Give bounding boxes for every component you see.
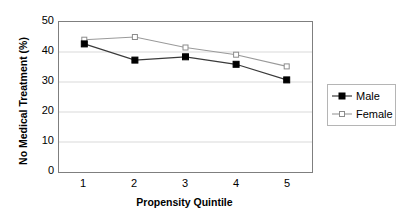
data-point-female-q5 — [284, 64, 289, 69]
data-point-male-q1 — [81, 41, 87, 47]
y-tick-label-30: 30 — [32, 75, 54, 86]
x-axis-tick-labels: 1 2 3 4 5 — [58, 177, 311, 191]
legend-entry-female: Female — [331, 106, 395, 122]
data-point-female-q3 — [183, 45, 188, 50]
x-axis-title: Propensity Quintile — [58, 196, 311, 208]
y-tick-label-50: 50 — [32, 15, 54, 26]
y-tick-label-40: 40 — [32, 45, 54, 56]
x-tick-label-3: 3 — [170, 177, 200, 189]
legend-marker-female-icon — [331, 106, 353, 122]
gridlines — [59, 52, 312, 142]
y-axis-title: No Medical Treatment (%) — [17, 16, 29, 186]
x-tick-label-4: 4 — [221, 177, 251, 189]
y-tick-label-20: 20 — [32, 105, 54, 116]
x-tick-label-2: 2 — [119, 177, 149, 189]
data-point-female-q4 — [234, 52, 239, 57]
chart-legend: Male Female — [327, 84, 396, 126]
data-point-male-q4 — [233, 61, 239, 67]
x-tick-label-5: 5 — [272, 177, 302, 189]
plot-area — [58, 21, 313, 173]
y-axis-tick-labels: 50 40 30 20 10 0 — [30, 0, 54, 220]
chart-figure: No Medical Treatment (%) 50 40 30 20 10 … — [0, 0, 403, 220]
legend-marker-male-icon — [331, 88, 353, 104]
chart-plot-svg — [59, 22, 312, 172]
data-point-male-q3 — [183, 54, 189, 60]
y-tick-label-10: 10 — [32, 135, 54, 146]
legend-label-female: Female — [356, 107, 393, 121]
data-point-female-q2 — [132, 35, 137, 40]
legend-label-male: Male — [356, 89, 380, 103]
legend-entry-male: Male — [331, 88, 395, 104]
x-tick-label-1: 1 — [68, 177, 98, 189]
y-tick-label-0: 0 — [32, 165, 54, 176]
data-point-male-q5 — [284, 77, 290, 83]
data-point-male-q2 — [132, 57, 138, 63]
